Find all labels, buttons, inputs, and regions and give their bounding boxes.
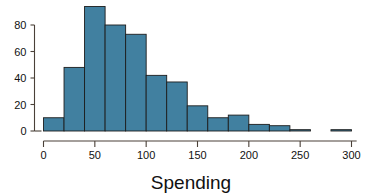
x-tick-label: 50 <box>89 149 101 161</box>
histogram-svg: 050100150200250300 020406080 Spending <box>0 0 383 196</box>
histogram-bar <box>290 130 311 131</box>
x-tick-label: 250 <box>291 149 309 161</box>
histogram-bar <box>269 126 290 131</box>
histogram-bar <box>331 130 352 131</box>
histogram-bar <box>146 75 167 131</box>
y-tick-label: 60 <box>14 46 26 58</box>
x-tick-label: 300 <box>342 149 360 161</box>
histogram-bar <box>85 6 106 131</box>
y-tick-labels-group: 020406080 <box>14 19 26 137</box>
x-axis-title: Spending <box>151 172 231 193</box>
plot-area: 050100150200250300 020406080 Spending <box>0 0 383 196</box>
histogram-bar <box>44 118 65 131</box>
histogram-bar <box>187 106 208 131</box>
bars-group <box>44 6 352 131</box>
x-tick-labels-group: 050100150200250300 <box>40 149 360 161</box>
histogram-bar <box>249 124 270 131</box>
histogram-bar <box>64 67 85 131</box>
y-tick-label: 0 <box>20 125 26 137</box>
y-tick-label: 80 <box>14 19 26 31</box>
y-tick-label: 40 <box>14 72 26 84</box>
histogram-bar <box>228 115 249 131</box>
histogram-bar <box>167 82 188 131</box>
y-tick-label: 20 <box>14 99 26 111</box>
histogram-bar <box>105 25 126 131</box>
x-tick-label: 100 <box>137 149 155 161</box>
histogram-figure: 050100150200250300 020406080 Spending <box>0 0 383 196</box>
x-tick-label: 150 <box>188 149 206 161</box>
x-tick-label: 200 <box>240 149 258 161</box>
histogram-bar <box>208 118 229 131</box>
histogram-bar <box>126 34 147 131</box>
x-tick-label: 0 <box>40 149 46 161</box>
